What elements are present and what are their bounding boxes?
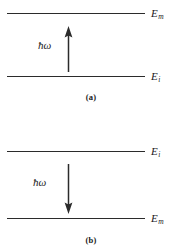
energy-level-line-lower-a	[7, 76, 145, 77]
arrow-down-icon	[62, 164, 75, 214]
energy-level-label-base: E	[151, 70, 158, 82]
energy-level-label-lower-b: Em	[151, 213, 164, 225]
energy-level-label-base: E	[151, 212, 158, 224]
energy-level-label-subscript: i	[158, 75, 160, 84]
energy-level-label-subscript: m	[158, 217, 164, 226]
arrow-up-icon	[62, 26, 75, 72]
energy-level-label-upper-b: Ei	[151, 146, 160, 158]
panel-caption-b: (b)	[0, 236, 182, 245]
energy-level-label-subscript: m	[158, 12, 164, 21]
panel-b-emission: Ei ħω Em (b)	[0, 126, 182, 252]
energy-level-label-base: E	[151, 145, 158, 157]
photon-energy-label-b: ħω	[33, 177, 46, 188]
energy-level-label-base: E	[151, 7, 158, 19]
energy-level-label-subscript: i	[158, 150, 160, 159]
energy-level-line-lower-b	[7, 218, 145, 219]
energy-level-label-lower-a: Ei	[151, 71, 160, 83]
transition-arrow-down-b	[62, 164, 75, 214]
panel-caption-a: (a)	[0, 93, 182, 102]
energy-level-line-upper-a	[7, 13, 145, 14]
energy-level-line-upper-b	[7, 151, 145, 152]
energy-level-label-upper-a: Em	[151, 8, 164, 20]
transition-arrow-up-a	[62, 26, 75, 72]
energy-level-figure: Em ħω Ei (a) Ei ħω Em (b)	[0, 0, 182, 252]
photon-energy-label-a: ħω	[38, 40, 51, 51]
panel-a-absorption: Em ħω Ei (a)	[0, 0, 182, 126]
